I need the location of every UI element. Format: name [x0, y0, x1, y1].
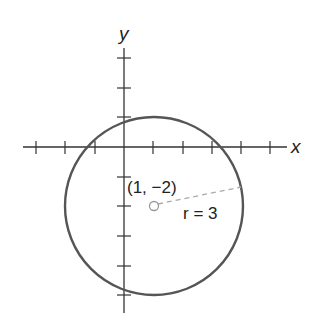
- center-label: (1, −2): [127, 178, 177, 197]
- y-axis-label: y: [117, 23, 130, 44]
- x-axis-label: x: [290, 136, 302, 157]
- center-point: [150, 202, 159, 211]
- radius-label: r = 3: [183, 204, 218, 223]
- circle-diagram: y x (1, −2) r = 3: [0, 0, 323, 331]
